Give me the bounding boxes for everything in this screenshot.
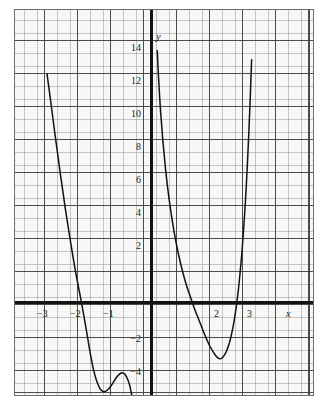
graph-page: 14 12 10 8 6 4 2 −2 −4 −3 −2 −1 2 3 y x [0, 0, 328, 405]
y-tick-label-4: 4 [121, 208, 141, 218]
x-axis-label: x [286, 309, 291, 320]
x-tick-label-minus-1: −1 [103, 309, 114, 319]
x-tick-label-2: 2 [214, 309, 219, 319]
y-tick-label-minus-2: −2 [119, 334, 141, 344]
curve-layer [15, 10, 314, 396]
plot-frame: 14 12 10 8 6 4 2 −2 −4 −3 −2 −1 2 3 y x [14, 9, 314, 396]
y-tick-label-14: 14 [121, 43, 141, 53]
curve-branch-left [47, 74, 134, 396]
y-tick-label-minus-4: −4 [119, 367, 141, 377]
y-tick-label-10: 10 [121, 109, 141, 119]
x-tick-label-minus-3: −3 [37, 309, 48, 319]
curve-branch-right [157, 51, 251, 359]
y-tick-label-2: 2 [121, 241, 141, 251]
y-tick-label-8: 8 [121, 142, 141, 152]
x-tick-label-minus-2: −2 [70, 309, 81, 319]
y-tick-label-6: 6 [121, 175, 141, 185]
y-tick-label-12: 12 [121, 76, 141, 86]
x-tick-label-3: 3 [247, 309, 252, 319]
y-axis-label: y [156, 32, 161, 43]
